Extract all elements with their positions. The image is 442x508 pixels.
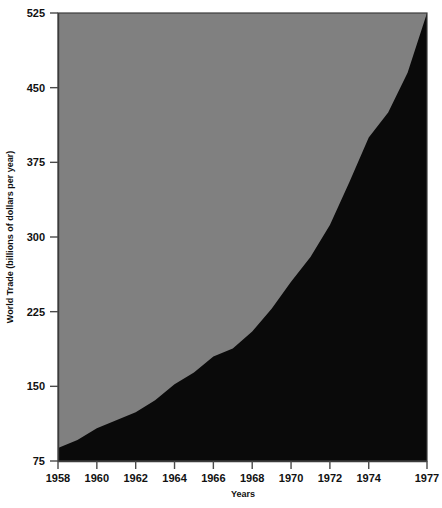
y-tick-label: 225: [27, 306, 45, 318]
area-chart: 75150225300375450525 1958196019621964196…: [0, 0, 442, 508]
x-tick-label: 1966: [201, 472, 225, 484]
x-axis-title: Years: [231, 489, 255, 499]
x-axis-ticks: 1958196019621964196619681970197219741977: [46, 461, 439, 484]
x-tick-label: 1964: [162, 472, 187, 484]
x-tick-label: 1977: [415, 472, 439, 484]
x-tick-label: 1970: [279, 472, 303, 484]
x-tick-label: 1974: [356, 472, 381, 484]
y-tick-label: 150: [27, 380, 45, 392]
y-tick-label: 75: [33, 455, 45, 467]
y-axis-title: World Trade (billions of dollars per yea…: [5, 151, 15, 323]
chart-figure: 75150225300375450525 1958196019621964196…: [0, 0, 442, 508]
x-tick-label: 1962: [123, 472, 147, 484]
y-tick-label: 300: [27, 231, 45, 243]
y-tick-label: 525: [27, 7, 45, 19]
x-tick-label: 1968: [240, 472, 264, 484]
x-tick-label: 1960: [85, 472, 109, 484]
y-tick-label: 450: [27, 82, 45, 94]
y-tick-label: 375: [27, 156, 45, 168]
x-tick-label: 1972: [318, 472, 342, 484]
y-axis-ticks: 75150225300375450525: [27, 7, 58, 467]
x-tick-label: 1958: [46, 472, 70, 484]
